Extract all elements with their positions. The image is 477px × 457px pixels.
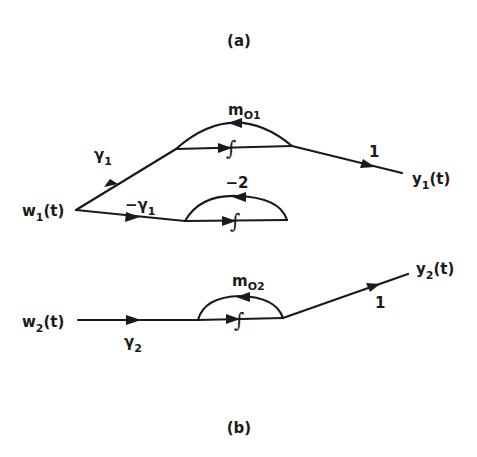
arrow-icon: [366, 283, 380, 292]
integrator-symbol-lower: ∫: [230, 209, 240, 233]
output-edge-b: [283, 274, 408, 318]
output-y2-label: y2(t): [416, 260, 454, 282]
caption-b: (b): [227, 419, 251, 437]
input-w2-label: w2(t): [22, 313, 64, 335]
integrator-symbol-upper: ∫: [226, 136, 236, 160]
output-gain-b: 1: [375, 294, 385, 312]
signal-flow-graph: (a) w1(t) γ1 ∫ mO1 1 y1(t): [0, 0, 477, 457]
caption-a: (a): [227, 32, 251, 50]
output-edge-a: [292, 146, 402, 173]
arrow-icon: [232, 192, 246, 202]
diagram-b: w2(t) γ2 ∫ mO2 1 y2(t): [22, 260, 454, 355]
m02-label: mO2: [232, 272, 265, 293]
neg-2-label: −2: [225, 174, 248, 192]
arrow-icon: [126, 315, 141, 325]
m01-label: mO1: [228, 101, 261, 122]
gamma1-label: γ1: [94, 146, 112, 168]
diagram-a: w1(t) γ1 ∫ mO1 1 y1(t) −γ1: [22, 101, 450, 233]
output-y1-label: y1(t): [412, 170, 450, 192]
arrow-icon: [228, 118, 242, 128]
arrow-icon: [236, 292, 250, 302]
input-w1-label: w1(t): [22, 202, 64, 224]
integrator-symbol-b: ∫: [234, 308, 244, 332]
output-gain-a: 1: [369, 143, 379, 161]
gamma2-label: γ2: [124, 333, 142, 355]
